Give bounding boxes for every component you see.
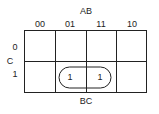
bottom-label: BC [76, 96, 96, 106]
cell-r1-c11: 1 [95, 72, 105, 82]
cell-r1-c01: 1 [65, 72, 75, 82]
